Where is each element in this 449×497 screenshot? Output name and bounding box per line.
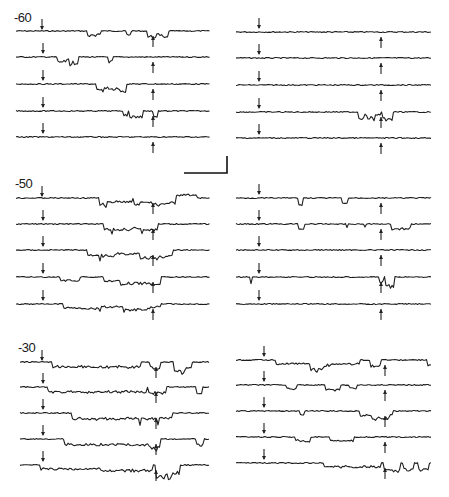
current-trace-right <box>236 138 431 139</box>
arrow-head-icon <box>41 432 45 436</box>
current-trace-right <box>236 32 431 33</box>
current-trace-right <box>236 112 431 122</box>
current-trace-left <box>16 224 210 235</box>
current-trace-left <box>20 439 209 451</box>
arrow-head-icon <box>151 62 155 66</box>
arrow-head-icon <box>151 89 155 93</box>
current-trace-left <box>20 362 209 375</box>
arrow-head-icon <box>40 26 44 30</box>
current-trace-right <box>236 85 431 86</box>
scale-bar <box>184 156 227 173</box>
current-trace-right <box>236 277 431 289</box>
current-trace-right <box>236 360 431 373</box>
arrow-head-icon <box>379 255 383 259</box>
arrow-head-icon <box>383 390 387 394</box>
arrow-head-icon <box>379 229 383 233</box>
arrow-head-icon <box>257 217 261 221</box>
arrow-head-icon <box>262 353 266 357</box>
arrow-head-icon <box>41 243 45 247</box>
current-trace-left <box>16 57 210 66</box>
arrow-head-icon <box>379 63 383 67</box>
arrow-head-icon <box>151 309 155 313</box>
arrow-head-icon <box>262 378 266 382</box>
current-trace-right <box>236 198 431 206</box>
arrow-head-icon <box>262 456 266 460</box>
arrow-head-icon <box>154 444 158 448</box>
current-trace-left <box>16 111 210 119</box>
arrow-head-icon <box>41 380 45 384</box>
current-trace-left <box>20 413 209 426</box>
arrow-head-icon <box>257 270 261 274</box>
arrow-head-icon <box>40 193 44 197</box>
arrow-head-icon <box>379 203 383 207</box>
current-trace-left <box>16 194 210 207</box>
figure-canvas <box>0 0 449 497</box>
arrow-head-icon <box>257 131 261 135</box>
arrow-head-icon <box>41 77 45 81</box>
arrow-head-icon <box>41 217 45 221</box>
current-trace-right <box>236 58 431 59</box>
arrow-head-icon <box>154 470 158 474</box>
arrow-head-icon <box>257 25 261 29</box>
arrow-head-icon <box>40 357 44 361</box>
arrow-head-icon <box>262 430 266 434</box>
arrow-head-icon <box>41 406 45 410</box>
arrow-head-icon <box>257 105 261 109</box>
arrow-head-icon <box>257 297 261 301</box>
arrow-head-icon <box>383 442 387 446</box>
arrow-head-icon <box>41 297 45 301</box>
current-trace-right <box>236 437 431 443</box>
current-trace-right <box>236 224 431 231</box>
current-trace-left <box>16 250 210 262</box>
arrow-head-icon <box>257 78 261 82</box>
voltage-label-minus-30: -30 <box>18 340 35 355</box>
current-trace-left <box>16 84 210 93</box>
arrow-head-icon <box>383 365 387 369</box>
current-trace-left <box>16 31 210 39</box>
voltage-label-minus-60: -60 <box>14 10 31 25</box>
arrow-head-icon <box>41 130 45 134</box>
arrow-head-icon <box>257 191 261 195</box>
arrow-head-icon <box>151 142 155 146</box>
arrow-head-icon <box>379 309 383 313</box>
arrow-head-icon <box>379 90 383 94</box>
current-trace-right <box>236 463 431 473</box>
current-trace-right <box>236 411 431 421</box>
arrow-head-icon <box>41 104 45 108</box>
current-trace-right <box>236 304 431 305</box>
current-trace-right <box>236 250 431 251</box>
arrow-head-icon <box>262 404 266 408</box>
arrow-head-icon <box>379 37 383 41</box>
arrow-head-icon <box>41 50 45 54</box>
arrow-head-icon <box>257 243 261 247</box>
current-trace-right <box>236 385 431 392</box>
voltage-label-minus-50: -50 <box>15 176 32 191</box>
current-trace-left <box>16 137 210 138</box>
arrow-head-icon <box>41 270 45 274</box>
arrow-head-icon <box>41 458 45 462</box>
arrow-head-icon <box>379 143 383 147</box>
current-trace-left <box>20 465 209 480</box>
arrow-head-icon <box>257 51 261 55</box>
current-trace-left <box>16 304 210 313</box>
current-trace-left <box>16 277 210 286</box>
current-trace-left <box>20 387 209 395</box>
